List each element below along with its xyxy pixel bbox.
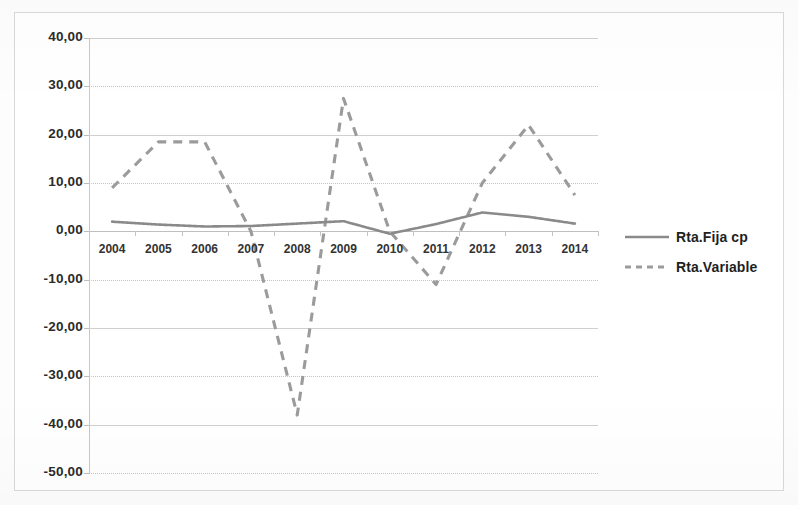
x-axis-tick-label-2011: 2011 bbox=[423, 242, 449, 256]
y-tick-mark bbox=[84, 86, 89, 87]
y-axis-tick-label: 30,00 bbox=[5, 77, 83, 92]
x-tick-mark bbox=[598, 231, 599, 236]
y-axis-tick-label: -30,00 bbox=[5, 367, 83, 382]
x-axis-tick-label-2008: 2008 bbox=[284, 242, 311, 256]
legend-swatch-dashed-icon bbox=[625, 261, 669, 273]
x-axis-tick-label-2007: 2007 bbox=[238, 242, 265, 256]
y-tick-mark bbox=[84, 135, 89, 136]
y-tick-mark bbox=[84, 231, 89, 232]
x-tick-mark bbox=[367, 231, 368, 236]
chart-legend: Rta.Fija cp Rta.Variable bbox=[625, 222, 785, 282]
y-tick-mark bbox=[84, 183, 89, 184]
y-axis-labels: 40,0030,0020,0010,000,00-10,00-20,00-30,… bbox=[0, 0, 83, 505]
x-tick-mark bbox=[182, 231, 183, 236]
y-axis-tick-label: 20,00 bbox=[5, 126, 83, 141]
x-axis-tick-label-2004: 2004 bbox=[99, 242, 126, 256]
y-tick-mark bbox=[84, 38, 89, 39]
chart-screenshot: 40,0030,0020,0010,000,00-10,00-20,00-30,… bbox=[0, 0, 798, 505]
y-tick-mark bbox=[84, 280, 89, 281]
y-tick-mark bbox=[84, 473, 89, 474]
y-axis-tick-label: -10,00 bbox=[5, 271, 83, 286]
x-tick-mark bbox=[505, 231, 506, 236]
legend-label-rta-fija-cp: Rta.Fija cp bbox=[676, 229, 748, 245]
y-tick-mark bbox=[84, 425, 89, 426]
line-rta-variable bbox=[112, 98, 575, 415]
x-tick-mark bbox=[413, 231, 414, 236]
x-axis-tick-label-2014: 2014 bbox=[562, 242, 589, 256]
y-axis-tick-label: -40,00 bbox=[5, 416, 83, 431]
x-tick-mark bbox=[274, 231, 275, 236]
x-axis-tick-label-2006: 2006 bbox=[191, 242, 218, 256]
x-axis-tick-label-2010: 2010 bbox=[376, 242, 403, 256]
x-tick-mark bbox=[228, 231, 229, 236]
x-tick-mark bbox=[552, 231, 553, 236]
y-tick-mark bbox=[84, 376, 89, 377]
x-tick-mark bbox=[320, 231, 321, 236]
x-axis-tick-label-2012: 2012 bbox=[469, 242, 496, 256]
x-tick-mark bbox=[459, 231, 460, 236]
x-axis-tick-label-2005: 2005 bbox=[145, 242, 172, 256]
legend-item-rta-variable[interactable]: Rta.Variable bbox=[625, 252, 785, 282]
x-axis-tick-label-2009: 2009 bbox=[330, 242, 357, 256]
y-axis-tick-label: 40,00 bbox=[5, 29, 83, 44]
x-axis-tick-label-2013: 2013 bbox=[515, 242, 542, 256]
legend-label-rta-variable: Rta.Variable bbox=[676, 259, 757, 275]
y-axis-tick-label: 0,00 bbox=[5, 222, 83, 237]
y-axis-tick-label: -50,00 bbox=[5, 464, 83, 479]
x-tick-mark bbox=[135, 231, 136, 236]
y-tick-mark bbox=[84, 328, 89, 329]
y-axis-tick-label: -20,00 bbox=[5, 319, 83, 334]
legend-swatch-dotted-icon bbox=[625, 231, 669, 243]
x-tick-mark bbox=[89, 231, 90, 236]
y-axis-tick-label: 10,00 bbox=[5, 174, 83, 189]
legend-item-rta-fija-cp[interactable]: Rta.Fija cp bbox=[625, 222, 785, 252]
gridline-neg50 bbox=[89, 473, 598, 474]
